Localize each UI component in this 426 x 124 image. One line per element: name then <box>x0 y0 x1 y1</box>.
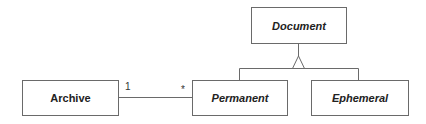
multiplicity-archive-end: 1 <box>125 82 131 92</box>
class-archive-name: Archive <box>50 92 90 104</box>
class-document-name: Document <box>272 20 326 32</box>
generalization-arrowhead-icon <box>293 56 305 69</box>
class-permanent: Permanent <box>192 80 288 116</box>
uml-class-diagram: Document Archive Permanent Ephemeral 1 * <box>0 0 426 124</box>
class-archive: Archive <box>22 80 119 116</box>
class-ephemeral-name: Ephemeral <box>332 92 388 104</box>
multiplicity-permanent-end: * <box>181 85 185 95</box>
class-ephemeral: Ephemeral <box>311 80 409 116</box>
class-permanent-name: Permanent <box>212 92 269 104</box>
class-document: Document <box>251 7 347 44</box>
